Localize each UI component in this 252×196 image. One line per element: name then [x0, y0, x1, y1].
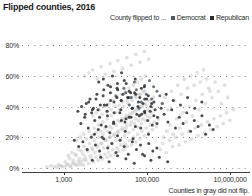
data-point: [124, 130, 127, 133]
data-point: [109, 154, 113, 158]
data-point: [81, 158, 85, 162]
data-point: [123, 145, 126, 148]
legend-swatch-democrat: [171, 16, 175, 20]
y-tick-label: 60%: [6, 72, 19, 79]
data-point: [86, 148, 89, 151]
data-point: [110, 142, 113, 145]
data-point: [125, 99, 129, 103]
data-point: [212, 128, 215, 131]
data-point: [208, 89, 212, 93]
data-point: [108, 62, 112, 66]
data-point: [183, 140, 187, 144]
data-point: [135, 113, 138, 116]
legend-entry-republican[interactable]: Republican: [210, 14, 249, 21]
data-point: [150, 97, 153, 100]
data-point: [80, 149, 84, 153]
data-point: [191, 114, 195, 118]
data-point: [100, 112, 104, 116]
data-point: [133, 81, 136, 84]
data-point: [107, 125, 111, 129]
data-point: [216, 89, 220, 93]
data-point: [213, 80, 217, 84]
data-point: [212, 117, 216, 121]
legend-entry-democrat[interactable]: Democrat: [171, 14, 205, 21]
data-point: [124, 114, 128, 118]
data-point: [156, 122, 159, 125]
data-point: [176, 83, 180, 87]
data-point: [129, 63, 133, 67]
data-point: [89, 154, 93, 158]
data-point: [106, 114, 109, 117]
data-point: [89, 97, 92, 100]
data-point: [125, 56, 129, 60]
data-point: [171, 145, 175, 149]
data-point: [140, 87, 143, 90]
data-point: [98, 116, 101, 119]
data-point: [97, 81, 100, 84]
x-tick-mark: [147, 172, 148, 175]
gridline: [22, 168, 250, 169]
data-point: [125, 117, 128, 120]
data-point: [98, 150, 101, 153]
data-point: [116, 119, 120, 123]
data-point: [204, 102, 208, 106]
data-point: [198, 80, 202, 84]
data-point: [87, 101, 90, 104]
data-point: [76, 110, 79, 113]
data-point: [178, 126, 182, 130]
data-point: [149, 159, 152, 162]
data-point: [112, 122, 115, 125]
data-point: [94, 111, 98, 115]
data-point: [155, 147, 158, 150]
data-point: [200, 101, 203, 104]
data-point: [114, 151, 117, 154]
data-point: [101, 132, 105, 136]
data-point: [123, 142, 127, 146]
data-point: [137, 101, 140, 104]
y-axis: 0%20%40%60%80%: [0, 33, 19, 171]
data-point: [232, 108, 236, 112]
data-point: [121, 66, 125, 70]
data-point: [215, 125, 219, 129]
data-point: [178, 116, 181, 119]
data-point: [93, 119, 96, 122]
data-point: [226, 96, 230, 100]
data-point: [139, 127, 142, 130]
data-point: [142, 50, 146, 54]
data-point: [73, 139, 76, 142]
data-point: [93, 138, 97, 142]
x-tick-mark: [64, 172, 65, 175]
data-point: [158, 94, 161, 97]
data-point: [139, 143, 142, 146]
data-point: [112, 69, 116, 73]
data-point: [140, 122, 144, 126]
data-point: [120, 119, 123, 122]
data-point: [135, 80, 139, 84]
data-point: [128, 123, 132, 127]
data-point: [202, 68, 206, 72]
legend-swatch-republican: [210, 16, 214, 20]
data-point: [164, 151, 168, 155]
data-point: [166, 160, 169, 163]
data-point: [79, 163, 83, 167]
data-point: [151, 150, 154, 153]
data-point: [143, 110, 146, 113]
data-point: [82, 132, 86, 136]
data-point: [197, 108, 201, 112]
data-point: [137, 92, 141, 96]
data-point: [158, 148, 162, 152]
data-point: [197, 125, 200, 128]
flipped-counties-chart: Flipped counties, 2016 County flipped to…: [0, 0, 252, 196]
data-point: [141, 89, 145, 93]
data-point: [132, 122, 136, 126]
data-point: [138, 96, 141, 99]
x-axis-line: [22, 172, 250, 173]
data-point: [184, 120, 188, 124]
data-point: [166, 120, 169, 123]
data-point: [222, 122, 226, 126]
y-tick-label: 40%: [6, 103, 19, 110]
data-point: [145, 114, 149, 118]
data-point: [116, 154, 119, 157]
chart-title: Flipped counties, 2016: [3, 2, 95, 12]
data-point: [119, 143, 123, 147]
